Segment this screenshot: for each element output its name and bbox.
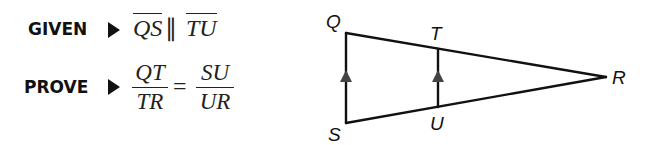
label-r: R [612,67,626,88]
label-t: T [430,23,443,44]
label-s: S [328,124,341,145]
triangle-diagram: Q T R S U [0,0,649,145]
parallel-mark-qs-icon [340,70,352,82]
segment-qr [346,33,606,77]
parallel-mark-tu-icon [432,70,444,82]
segment-sr [346,77,606,123]
label-u: U [430,113,444,134]
label-q: Q [326,11,341,32]
